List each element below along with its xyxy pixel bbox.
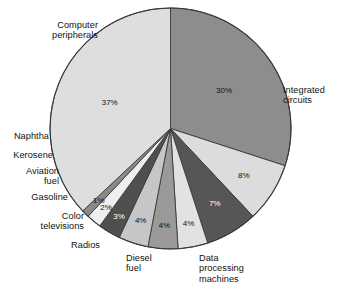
pie-percent-radios: 4% bbox=[183, 219, 195, 228]
slice-label-diesel-fuel: Diesel fuel bbox=[126, 253, 176, 274]
pie-percent-integrated-circuits: 30% bbox=[216, 86, 232, 95]
slice-label-radios: Radios bbox=[10, 240, 100, 250]
pie-chart-figure: 30%8%7%4%4%4%3%2%1%37% Computer peripher… bbox=[0, 0, 344, 290]
pie-percent-gasoline: 4% bbox=[135, 216, 147, 225]
slice-label-computer-peripherals: Computer peripherals bbox=[6, 20, 98, 41]
pie-percent-naphtha: 1% bbox=[93, 196, 105, 205]
slice-label-gasoline: Gasoline bbox=[0, 192, 68, 202]
pie-percent-aviation-fuel: 3% bbox=[113, 212, 125, 221]
slice-label-data-processing-machines: Data processing machines bbox=[199, 253, 277, 284]
slice-label-color-televisions: Color televisions bbox=[0, 211, 84, 232]
slice-label-naphtha: Naphtha bbox=[0, 131, 49, 141]
slice-label-aviation-fuel: Aviation fuel bbox=[0, 166, 59, 187]
pie-percent-data-processing-machines: 8% bbox=[238, 171, 250, 180]
pie-percent-computer-peripherals: 37% bbox=[102, 98, 118, 107]
slice-label-kerosene: Kerosene bbox=[0, 150, 53, 160]
slice-label-integrated-circuits: Integrated circuits bbox=[283, 85, 341, 106]
pie-percent-diesel-fuel: 7% bbox=[209, 199, 221, 208]
pie-percent-color-televisions: 4% bbox=[159, 221, 171, 230]
pie-slices-group bbox=[50, 8, 291, 249]
